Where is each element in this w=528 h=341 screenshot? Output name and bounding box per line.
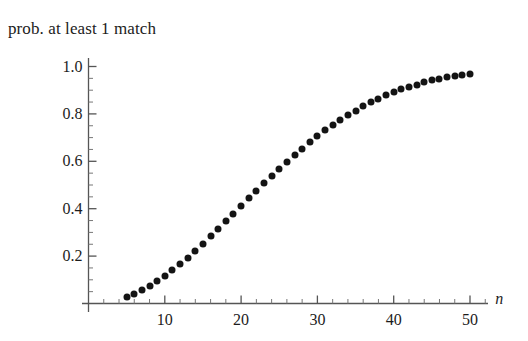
data-point bbox=[245, 195, 252, 202]
data-point bbox=[352, 107, 359, 114]
data-point bbox=[215, 225, 222, 232]
data-point bbox=[161, 272, 168, 279]
data-point bbox=[306, 139, 313, 146]
y-axis-major-ticks bbox=[89, 67, 97, 257]
data-point bbox=[299, 145, 306, 152]
data-point bbox=[276, 165, 283, 172]
data-point bbox=[360, 103, 367, 110]
data-point bbox=[123, 294, 130, 301]
data-point bbox=[398, 86, 405, 93]
data-point bbox=[207, 233, 214, 240]
data-point bbox=[314, 133, 321, 140]
data-point bbox=[199, 240, 206, 247]
data-point bbox=[291, 151, 298, 158]
x-axis-tick-label: 20 bbox=[233, 311, 249, 329]
x-axis-tick-label: 50 bbox=[462, 311, 478, 329]
data-point bbox=[268, 172, 275, 179]
x-axis-label: n bbox=[495, 290, 503, 308]
data-point bbox=[459, 71, 466, 78]
data-point bbox=[405, 83, 412, 90]
y-axis-tick-label: 1.0 bbox=[63, 58, 83, 76]
data-point bbox=[329, 122, 336, 129]
y-axis-tick-label: 0.4 bbox=[63, 200, 83, 218]
data-point bbox=[413, 81, 420, 88]
data-point bbox=[177, 260, 184, 267]
x-axis-minor-ticks bbox=[104, 299, 486, 304]
data-point bbox=[131, 291, 138, 298]
data-point bbox=[421, 79, 428, 86]
x-axis-tick-label: 40 bbox=[386, 311, 402, 329]
data-point bbox=[375, 95, 382, 102]
y-axis-tick-label: 0.8 bbox=[63, 105, 83, 123]
data-point bbox=[436, 75, 443, 82]
data-point bbox=[283, 158, 290, 165]
data-point bbox=[230, 210, 237, 217]
data-point bbox=[146, 282, 153, 289]
y-axis-tick-label: 0.6 bbox=[63, 152, 83, 170]
data-point bbox=[192, 247, 199, 254]
x-axis-tick-label: 10 bbox=[157, 311, 173, 329]
data-point bbox=[184, 254, 191, 261]
data-point bbox=[337, 116, 344, 123]
chart-figure: prob. at least 1 match 0.20.40.60.81.0 1… bbox=[0, 0, 528, 341]
data-point bbox=[253, 187, 260, 194]
data-point bbox=[383, 92, 390, 99]
data-point bbox=[451, 72, 458, 79]
y-axis-tick-label: 0.2 bbox=[63, 247, 83, 265]
y-axis-minor-ticks bbox=[89, 78, 94, 291]
data-point bbox=[344, 112, 351, 119]
data-point bbox=[260, 180, 267, 187]
data-point bbox=[322, 127, 329, 134]
data-point bbox=[467, 70, 474, 77]
data-point bbox=[238, 203, 245, 210]
data-point bbox=[444, 74, 451, 81]
data-point bbox=[138, 287, 145, 294]
data-point bbox=[154, 277, 161, 284]
plot-axes-canvas bbox=[0, 0, 528, 341]
data-point bbox=[428, 77, 435, 84]
x-axis-tick-label: 30 bbox=[309, 311, 325, 329]
data-point bbox=[222, 218, 229, 225]
data-point bbox=[390, 89, 397, 96]
data-point bbox=[367, 99, 374, 106]
data-point bbox=[169, 267, 176, 274]
axis-lines bbox=[82, 58, 488, 312]
